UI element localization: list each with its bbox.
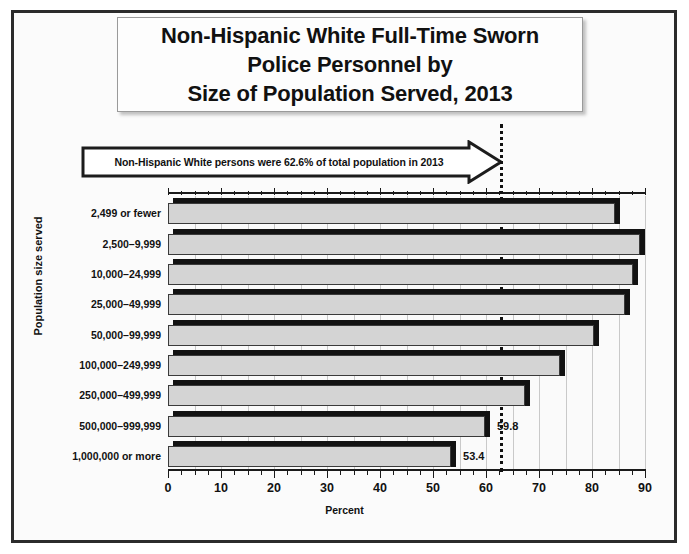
axis-minor-tick <box>605 191 606 195</box>
axis-major-tick <box>433 188 434 195</box>
bar <box>168 198 620 224</box>
axis-minor-tick <box>619 191 620 195</box>
bar-side-face <box>485 411 490 437</box>
axis-minor-tick <box>420 471 421 475</box>
bar-side-face <box>640 229 645 255</box>
axis-minor-tick <box>407 471 408 475</box>
x-axis-tick-labels: 0102030405060708090 <box>0 481 689 501</box>
bar-side-face <box>625 289 630 315</box>
axis-major-tick <box>539 188 540 195</box>
x-axis-tick-label: 30 <box>307 481 347 495</box>
axis-major-tick <box>221 471 222 478</box>
axis-minor-tick <box>566 471 567 475</box>
y-axis-tick-labels: 1,000,000 or more500,000–999,999250,000–… <box>8 196 161 469</box>
axis-major-tick <box>592 188 593 195</box>
axis-major-tick <box>380 188 381 195</box>
bar-front-face <box>168 325 594 346</box>
axis-minor-tick <box>393 471 394 475</box>
bar-chart: Population size served 1,000,000 or more… <box>0 0 689 554</box>
bar-front-face <box>168 294 625 315</box>
x-axis-tick-label: 60 <box>466 481 506 495</box>
axis-minor-tick <box>261 191 262 195</box>
bar <box>168 259 638 285</box>
bar <box>168 441 456 467</box>
bar-value-label: 53.4 <box>463 450 484 462</box>
bar-side-face <box>633 259 638 285</box>
axis-minor-tick <box>460 191 461 195</box>
axis-minor-tick <box>195 191 196 195</box>
bar-side-face <box>594 320 599 346</box>
axis-minor-tick <box>632 471 633 475</box>
axis-minor-tick <box>579 191 580 195</box>
y-axis-tick-label: 250,000–499,999 <box>11 389 161 401</box>
axis-major-tick <box>645 471 646 478</box>
axis-minor-tick <box>208 471 209 475</box>
bar <box>168 289 630 315</box>
axis-major-tick <box>433 471 434 478</box>
y-axis-tick-label: 50,000–99,999 <box>11 329 161 341</box>
axis-minor-tick <box>248 191 249 195</box>
axis-minor-tick <box>393 191 394 195</box>
axis-minor-tick <box>261 471 262 475</box>
bar-side-face <box>451 441 456 467</box>
chart-page: Non-Hispanic White Full-Time Sworn Polic… <box>0 0 689 554</box>
bar <box>168 380 530 406</box>
bar <box>168 350 565 376</box>
plot-area: 53.459.867.473.980.486.387.889.084.4 <box>168 196 645 469</box>
bar <box>168 411 490 437</box>
x-axis-tick-label: 20 <box>254 481 294 495</box>
axis-major-tick <box>486 188 487 195</box>
axis-minor-tick <box>446 191 447 195</box>
axis-major-tick <box>168 188 169 195</box>
axis-minor-tick <box>513 191 514 195</box>
axis-major-tick <box>274 471 275 478</box>
axis-minor-tick <box>552 471 553 475</box>
axis-minor-tick <box>340 471 341 475</box>
axis-minor-tick <box>526 471 527 475</box>
bar-front-face <box>168 203 615 224</box>
gridline <box>645 196 646 469</box>
axis-minor-tick <box>234 191 235 195</box>
x-axis-tick-label: 70 <box>519 481 559 495</box>
bar <box>168 229 645 255</box>
y-axis-tick-label: 10,000–24,999 <box>11 268 161 280</box>
axis-minor-tick <box>314 471 315 475</box>
axis-major-tick <box>327 471 328 478</box>
axis-major-tick <box>380 471 381 478</box>
x-axis-tick-label: 10 <box>201 481 241 495</box>
axis-minor-tick <box>181 191 182 195</box>
axis-minor-tick <box>367 471 368 475</box>
axis-minor-tick <box>354 471 355 475</box>
axis-minor-tick <box>473 191 474 195</box>
bar-front-face <box>168 446 451 467</box>
axis-minor-tick <box>195 471 196 475</box>
axis-minor-tick <box>301 191 302 195</box>
axis-major-tick <box>168 471 169 478</box>
axis-minor-tick <box>619 471 620 475</box>
axis-minor-tick <box>446 471 447 475</box>
axis-minor-tick <box>248 471 249 475</box>
x-axis <box>168 469 646 477</box>
axis-minor-tick <box>234 471 235 475</box>
axis-minor-tick <box>208 191 209 195</box>
x-axis-title: Percent <box>0 504 689 516</box>
bar-front-face <box>168 264 633 285</box>
axis-minor-tick <box>473 471 474 475</box>
axis-minor-tick <box>526 191 527 195</box>
y-axis-tick-label: 100,000–249,999 <box>11 359 161 371</box>
axis-minor-tick <box>407 191 408 195</box>
axis-major-tick <box>539 471 540 478</box>
axis-minor-tick <box>513 471 514 475</box>
axis-minor-tick <box>566 191 567 195</box>
axis-minor-tick <box>314 191 315 195</box>
bar-front-face <box>168 385 525 406</box>
axis-minor-tick <box>354 191 355 195</box>
x-axis-tick-label: 90 <box>625 481 665 495</box>
bar-side-face <box>560 350 565 376</box>
x-axis-tick-label: 80 <box>572 481 612 495</box>
axis-minor-tick <box>287 471 288 475</box>
axis-major-tick <box>221 188 222 195</box>
y-axis-tick-label: 2,500–9,999 <box>11 238 161 250</box>
bar <box>168 320 599 346</box>
axis-minor-tick <box>460 471 461 475</box>
